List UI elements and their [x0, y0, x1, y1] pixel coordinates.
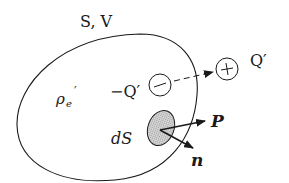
surface-element-label: dS [111, 129, 132, 148]
region-boundary [17, 34, 197, 181]
negative-charge [149, 74, 171, 96]
svg-text:e: e [66, 98, 72, 109]
normal-label: n [191, 150, 203, 170]
diagram-canvas: S, V ρ e ′ −Q′ Q′ dS P n [0, 0, 289, 183]
displacement-arrow [174, 72, 213, 81]
region-label: S, V [80, 12, 113, 31]
svg-text:′: ′ [74, 85, 77, 99]
polarization-label: P [210, 111, 225, 131]
svg-text:ρ: ρ [55, 90, 65, 108]
charge-density-label: ρ e ′ [55, 85, 77, 109]
positive-charge [216, 58, 238, 80]
positive-charge-label: Q′ [250, 51, 267, 70]
negative-charge-label: −Q′ [110, 82, 141, 101]
